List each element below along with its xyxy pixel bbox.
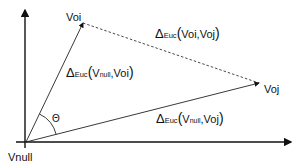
- delta-symbol: Δ: [66, 66, 75, 79]
- vector-null-to-oj: [26, 83, 259, 142]
- distance-label-oi-oj: Δ Euc ( Voi , Voj ): [155, 26, 220, 40]
- diagram-canvas: [0, 0, 302, 167]
- distance-label-null-oi: Δ Euc ( Vnull , Voi ): [66, 65, 134, 79]
- point-label-voj: Voj: [264, 84, 279, 95]
- theta-label: Θ: [52, 114, 60, 124]
- delta-symbol: Δ: [155, 27, 164, 40]
- point-label-voi: Voi: [66, 12, 81, 23]
- delta-symbol: Δ: [156, 112, 165, 125]
- vector-null-to-oi: [26, 23, 83, 142]
- point-label-vnull: Vnull: [8, 152, 32, 163]
- distance-label-null-oj: Δ Euc ( Vnull , Voj ): [156, 111, 224, 125]
